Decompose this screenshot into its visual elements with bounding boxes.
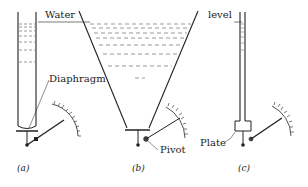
pressure-gauge-diagram: Water level [0,0,308,187]
water-label: Water [45,9,75,20]
plate-label: Plate [200,137,226,148]
diaphragm [18,126,36,129]
pointer-b [146,118,180,139]
scale-arc-b [166,107,185,138]
panel-b: Pivot (b) [79,11,198,173]
panel-a: Diaphragm (a) [16,12,106,173]
pivot-label: Pivot [160,144,186,155]
diaphragm-label: Diaphragm [49,73,106,84]
plate [235,121,251,131]
level-label: level [208,9,232,20]
caption-c: (c) [238,163,251,173]
caption-b: (b) [132,163,145,173]
pointer-a [27,120,64,145]
pointer-c [251,118,282,139]
caption-a: (a) [17,163,30,173]
panel-c: Plate (c) [200,12,294,173]
scale-arc-a [52,104,78,136]
scale-arc-c [272,106,291,136]
